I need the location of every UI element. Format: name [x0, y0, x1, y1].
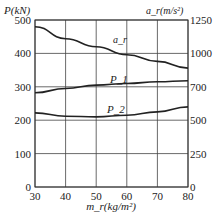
y-right-tick-label: 1250	[190, 14, 213, 26]
x-axis-label: m_r(kg/m²)	[86, 200, 136, 213]
series-label-p2: P_2	[106, 103, 125, 115]
x-tick-label: 80	[183, 190, 195, 202]
y-tick-label: 400	[15, 47, 32, 59]
y-axis-label: P(kN)	[3, 4, 31, 17]
y-right-tick-label: 250	[190, 148, 207, 160]
y-right-tick-label: 1000	[190, 47, 213, 59]
x-tick-label: 40	[60, 190, 72, 202]
y-right-tick-label: 700	[190, 81, 207, 93]
chart: 0100200300400500025050070010001250304050…	[0, 0, 214, 216]
y-tick-label: 100	[15, 148, 32, 160]
y-tick-label: 200	[15, 114, 32, 126]
y-right-tick-label: 500	[190, 114, 207, 126]
series-label-p1: P_1	[109, 73, 128, 85]
y-tick-label: 300	[15, 81, 32, 93]
y-right-axis-label: a_r(m/s²)	[146, 5, 184, 17]
series-label-ar: a_r	[113, 34, 127, 45]
series-line-a_r	[35, 27, 188, 68]
x-tick-label: 30	[30, 190, 42, 202]
x-tick-label: 70	[152, 190, 164, 202]
